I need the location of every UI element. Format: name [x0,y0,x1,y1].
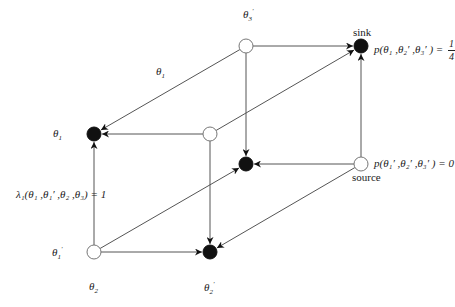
node-source [354,157,368,171]
label-theta2-prime-bottom: θ2′ [204,281,214,296]
label-theta1-diagonal: θ1 [156,66,165,80]
edge-top-back-left-to-top-front-left [101,50,240,130]
source-probability: p(θ₁′ ,θ₂′ ,θ₃′ ) = 0 [374,158,454,169]
node-top-front-right [203,127,217,141]
sink-label: sink [353,27,371,38]
node-sink [354,39,368,53]
node-top-front-left [87,127,101,141]
node-bottom-back-left [239,157,253,171]
label-theta2-bottom: θ2 [89,281,98,295]
edge-bottom-front-left-to-bottom-back-left [100,168,239,248]
label-theta1-prime-left: θ1′ [52,246,62,261]
node-bottom-front-right [203,245,217,259]
label-theta3-prime-top: θ3′ [243,8,253,23]
node-bottom-front-left [87,245,101,259]
edge-source-to-bottom-front-right [217,168,355,248]
sink-probability: p(θ₁ ,θ₂′ ,θ₃′ ) = 14 [374,39,455,62]
fraction: 14 [448,39,455,62]
label-theta1-left: θ1 [53,128,62,142]
node-top-back-left [239,39,253,53]
lambda-label: λ₁(θ₁ ,θ₁′ ,θ₂ ,θ₃) = 1 [16,189,106,200]
source-label: source [352,172,381,183]
edge-top-front-right-to-sink [216,50,354,130]
